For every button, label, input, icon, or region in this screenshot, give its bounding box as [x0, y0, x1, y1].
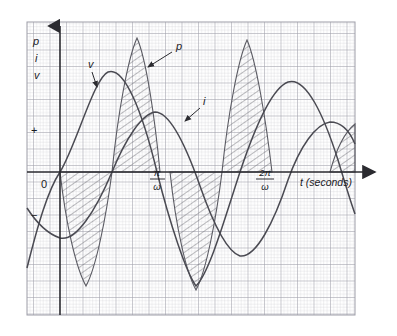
time-axis-label: t (seconds) [300, 176, 352, 188]
minus-sign-label: − [31, 209, 37, 221]
origin-label: 0 [41, 178, 47, 190]
plus-sign-label: + [31, 124, 37, 136]
figure-canvas: p i v + − 0 π ω 2π ω t (seconds) p v [0, 0, 397, 336]
tick-pi-numerator: π [154, 167, 161, 178]
tick-2pi-denominator: ω [261, 181, 269, 192]
axis-label-p: p [32, 35, 39, 47]
curve-label-p-text: p [175, 40, 182, 52]
ac-power-graph: p i v + − 0 π ω 2π ω t (seconds) p v [0, 0, 397, 336]
tick-pi-denominator: ω [153, 181, 161, 192]
tick-2pi-numerator: 2π [258, 167, 271, 178]
